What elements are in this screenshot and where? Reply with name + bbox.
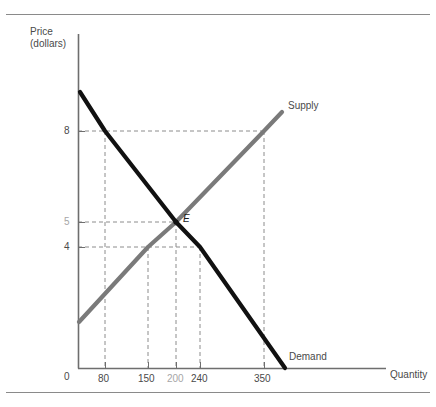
origin-label: 0 [64, 371, 70, 383]
equilibrium-label: E [183, 213, 190, 224]
x-tick-label-80: 80 [98, 373, 109, 385]
supply-curve [79, 112, 282, 322]
x-tick-label-200: 200 [167, 373, 184, 385]
y-tick-label-4: 4 [64, 241, 70, 253]
demand-curve-label: Demand [289, 351, 327, 362]
supply-curve-label: Supply [288, 100, 319, 111]
chart-canvas [0, 0, 436, 407]
x-axis-ticks [106, 362, 265, 368]
y-axis-ticks [79, 132, 85, 248]
equilibrium-point [173, 219, 178, 224]
x-tick-label-350: 350 [254, 373, 271, 385]
y-tick-label-5: 5 [64, 216, 70, 228]
x-axis-title: Quantity [390, 369, 427, 381]
axes [78, 34, 386, 369]
y-tick-label-8: 8 [64, 125, 70, 137]
y-axis-title-line2: (dollars) [30, 38, 66, 50]
top-divider-rule [6, 14, 430, 15]
x-tick-label-240: 240 [191, 373, 208, 385]
y-axis-title-line1: Price [30, 26, 53, 38]
guide-lines [78, 131, 264, 368]
bottom-divider-rule [6, 392, 430, 393]
supply-demand-figure: Price (dollars) Quantity 8 5 4 0 80 150 … [0, 0, 436, 407]
x-tick-label-150: 150 [138, 373, 155, 385]
demand-curve [80, 92, 285, 368]
